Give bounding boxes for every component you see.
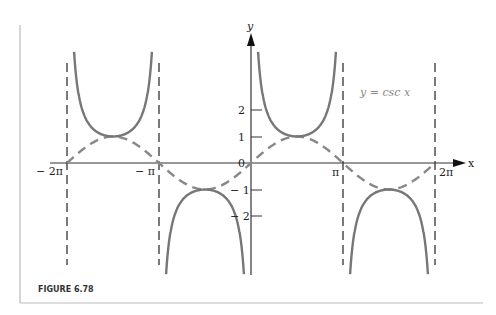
- csc-branch-3: [350, 190, 428, 275]
- equation-label: y = csc x: [359, 86, 411, 99]
- tick-neg2pi: − 2π: [36, 165, 63, 178]
- csc-branch-2: [258, 52, 336, 137]
- y-axis-label: y: [246, 20, 254, 33]
- ytick-2: 2: [238, 104, 245, 117]
- csc-branch-1: [166, 190, 244, 275]
- x-axis-arrow-icon: [453, 159, 466, 167]
- tick-pi: π: [332, 166, 339, 179]
- csc-graph: y x y = csc x − 2π − π 0 π 2π 2 1 − 1 − …: [0, 0, 496, 315]
- ytick-neg2: − 2: [230, 210, 250, 223]
- csc-branch-0: [74, 52, 152, 137]
- tick-2pi: 2π: [439, 166, 453, 179]
- x-axis-label: x: [468, 157, 475, 170]
- y-axis-arrow-icon: [247, 33, 255, 46]
- tick-zero: 0: [238, 157, 245, 170]
- ytick-1: 1: [238, 131, 245, 144]
- ytick-neg1: − 1: [230, 184, 250, 197]
- figure-caption: FIGURE 6.78: [38, 285, 94, 294]
- tick-negpi: − π: [135, 165, 155, 178]
